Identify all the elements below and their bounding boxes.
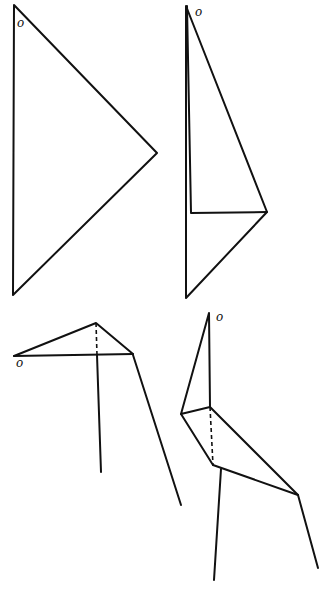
triangle-outline	[13, 5, 157, 295]
point-label-step-1: o	[17, 17, 24, 29]
folding-diagram	[0, 0, 322, 603]
neck-triangle	[181, 313, 210, 414]
body-lower-left	[181, 414, 213, 465]
figure-step-4	[181, 313, 318, 580]
left-leg	[97, 355, 101, 472]
point-label-step-3: o	[16, 357, 23, 369]
figure-step-2	[186, 6, 267, 298]
body-top-line	[14, 323, 133, 356]
body-bottom	[213, 465, 298, 495]
dashed-fold	[96, 323, 97, 355]
body-upper-right	[210, 407, 298, 495]
outer-triangle	[186, 6, 267, 298]
figure-step-1	[13, 5, 157, 295]
point-label-step-2: o	[195, 6, 202, 18]
figure-step-3	[14, 323, 181, 505]
point-label-step-4: o	[216, 311, 223, 323]
left-leg	[214, 469, 221, 580]
right-leg	[133, 355, 181, 505]
right-leg	[298, 495, 318, 568]
dashed-fold	[210, 407, 213, 465]
neck-line	[14, 354, 133, 356]
